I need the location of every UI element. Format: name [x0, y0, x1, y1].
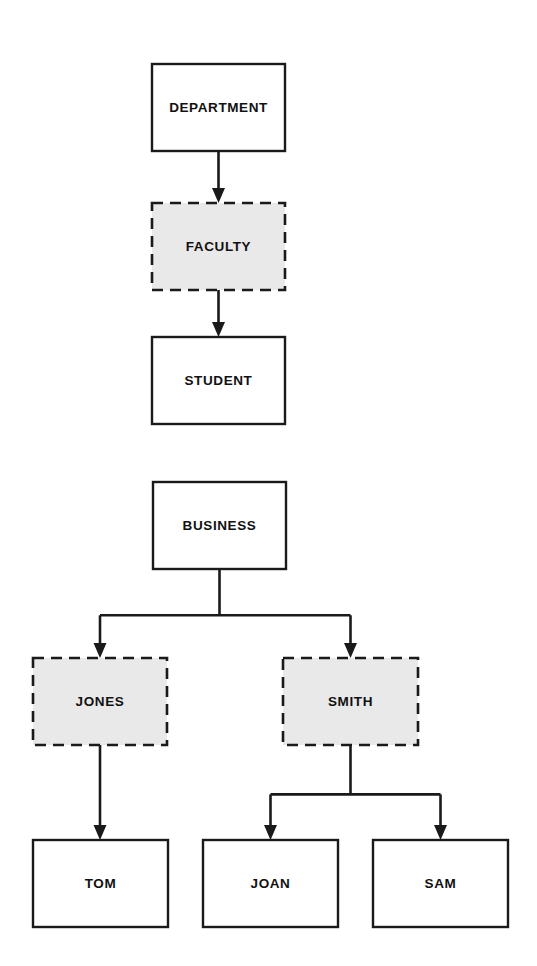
connector-edge-department-faculty	[212, 151, 225, 203]
node-label-sam: SAM	[425, 876, 457, 891]
node-jones[interactable]: JONES	[33, 658, 167, 745]
diagram-root: DEPARTMENTFACULTYSTUDENTBUSINESSJONESSMI…	[0, 0, 537, 966]
node-label-tom: TOM	[85, 876, 117, 891]
node-joan[interactable]: JOAN	[203, 840, 338, 927]
node-label-business: BUSINESS	[183, 518, 257, 533]
node-label-department: DEPARTMENT	[169, 100, 268, 115]
node-business[interactable]: BUSINESS	[153, 482, 286, 569]
connector-edge-jones-tom	[94, 745, 107, 840]
connector-edge-faculty-student	[212, 290, 225, 337]
diagram-canvas: DEPARTMENTFACULTYSTUDENTBUSINESSJONESSMI…	[0, 0, 537, 966]
node-label-smith: SMITH	[328, 694, 373, 709]
node-smith[interactable]: SMITH	[283, 658, 418, 745]
node-sam[interactable]: SAM	[373, 840, 508, 927]
node-student[interactable]: STUDENT	[152, 337, 285, 424]
node-tom[interactable]: TOM	[33, 840, 168, 927]
node-department[interactable]: DEPARTMENT	[152, 64, 285, 151]
node-label-faculty: FACULTY	[186, 239, 251, 254]
node-label-joan: JOAN	[251, 876, 291, 891]
connector-group-business	[94, 569, 358, 658]
node-label-student: STUDENT	[185, 373, 253, 388]
node-label-jones: JONES	[76, 694, 125, 709]
connector-group-smith	[264, 745, 447, 840]
node-faculty[interactable]: FACULTY	[152, 203, 285, 290]
